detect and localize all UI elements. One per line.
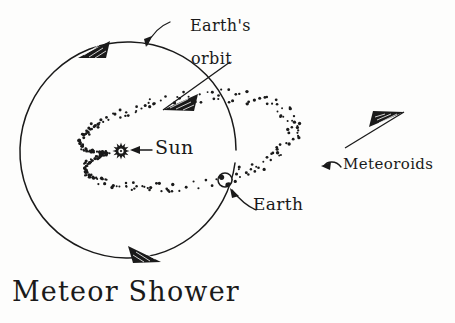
label-earths-orbit-line2: orbit	[168, 51, 251, 67]
meteoroids-leader-arrow	[321, 162, 341, 170]
orbit-direction-arrow-top	[78, 41, 110, 58]
sun-leader-arrow	[130, 146, 152, 154]
meteoroid-direction-arrow-outer	[345, 111, 404, 148]
label-earths-orbit-line1: Earth's	[190, 16, 251, 35]
earths-orbit-leader-arrow	[144, 22, 170, 47]
label-earths-orbit: Earth's orbit	[168, 2, 251, 100]
label-sun: Sun	[155, 138, 194, 157]
label-meteoroids: Meteoroids	[343, 157, 433, 172]
sun-icon	[112, 142, 129, 159]
diagram-title: Meteor Shower	[12, 276, 240, 307]
label-earth: Earth	[253, 196, 303, 213]
meteor-shower-diagram: Earth's orbit Sun Earth Meteoroids Meteo…	[0, 0, 455, 323]
